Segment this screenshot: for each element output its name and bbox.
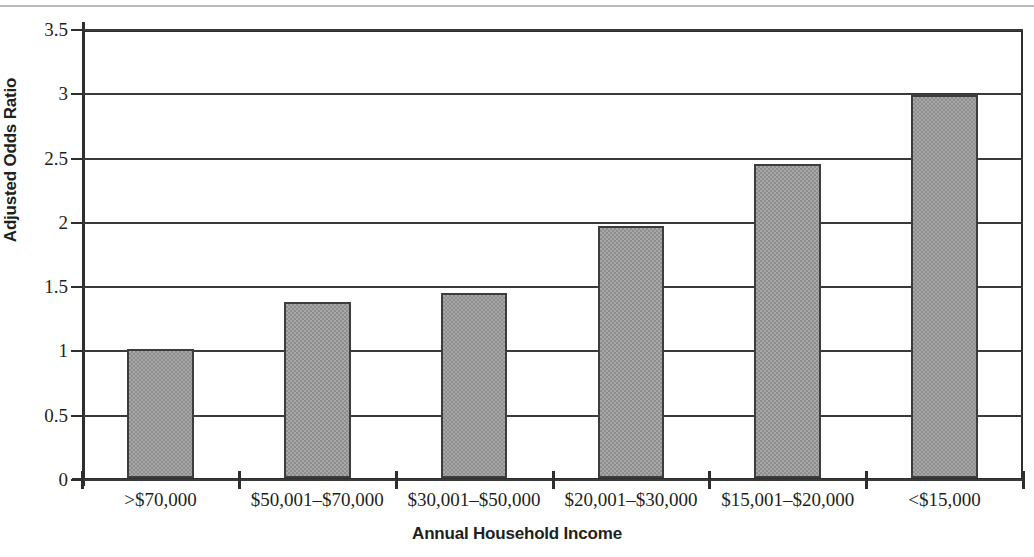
x-axis-category-label: $20,001–$30,000: [564, 489, 697, 511]
x-axis-tick: [552, 471, 555, 489]
y-axis-tick-label: 1: [59, 340, 69, 362]
y-axis-tick-label: 0.5: [44, 405, 68, 427]
plot-area: 00.511.522.533.5: [82, 30, 1023, 480]
bar: [284, 302, 351, 478]
bar: [754, 164, 821, 478]
bar: [441, 293, 508, 478]
gridline: [82, 350, 1023, 352]
x-axis-category-label: >$70,000: [124, 489, 196, 511]
y-axis-tick: [71, 158, 83, 160]
y-axis-title: Adjusted Odds Ratio: [1, 50, 21, 270]
gridline: [82, 93, 1023, 95]
bar: [127, 349, 194, 478]
x-axis-tick: [708, 471, 711, 489]
y-axis-tick: [71, 29, 83, 31]
x-axis-tick: [865, 471, 868, 489]
y-axis-tick: [71, 93, 83, 95]
y-axis-tick-label: 2.5: [44, 148, 68, 170]
x-axis-category-label: $50,001–$70,000: [251, 489, 384, 511]
y-axis-tick-label: 0: [59, 469, 69, 491]
gridline: [82, 29, 1023, 31]
gridline: [82, 222, 1023, 224]
y-axis-tick-label: 3: [59, 83, 69, 105]
plot-border-right: [1021, 30, 1023, 480]
page-rule: [0, 5, 1034, 7]
x-axis-tick: [395, 471, 398, 489]
x-axis-tick: [238, 471, 241, 489]
y-axis-tick: [71, 286, 83, 288]
bar: [598, 226, 665, 478]
gridline: [82, 415, 1023, 417]
y-axis-tick-label: 1.5: [44, 276, 68, 298]
y-axis-tick-label: 3.5: [44, 19, 68, 41]
y-axis-tick: [71, 415, 83, 417]
x-axis-category-label: <$15,000: [908, 489, 980, 511]
x-axis-tick: [1022, 471, 1025, 489]
y-axis-tick-label: 2: [59, 212, 69, 234]
x-axis-category-label: $15,001–$20,000: [721, 489, 854, 511]
figure-bar-chart: 00.511.522.533.5 >$70,000$50,001–$70,000…: [0, 0, 1034, 557]
y-axis-tick: [71, 350, 83, 352]
x-axis-category-label: $30,001–$50,000: [408, 489, 541, 511]
bar: [911, 95, 978, 478]
x-axis-title: Annual Household Income: [0, 524, 1034, 544]
gridline: [82, 158, 1023, 160]
y-axis-tick: [71, 222, 83, 224]
gridline: [82, 286, 1023, 288]
x-axis-tick: [81, 471, 84, 489]
